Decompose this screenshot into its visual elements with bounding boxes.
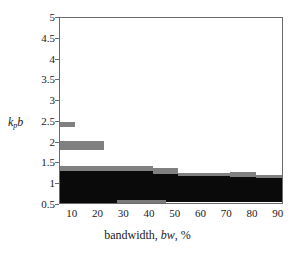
x-axis-title-prefix: bandwidth, <box>104 228 161 242</box>
band-segment <box>117 200 166 204</box>
chart-root: 0.511.522.533.544.55 102030405060708090 … <box>0 0 295 256</box>
x-axis-tick-labels: 102030405060708090 <box>0 208 295 224</box>
band-segment <box>256 178 283 200</box>
band-segment <box>60 141 104 151</box>
x-tick-label: 90 <box>272 208 283 219</box>
x-tick-label: 70 <box>221 208 232 219</box>
band-segment <box>230 177 256 200</box>
y-axis-title-b: b <box>17 115 23 129</box>
x-tick-label: 50 <box>169 208 180 219</box>
band-segment <box>60 171 153 201</box>
band-segment <box>166 200 283 202</box>
y-tick-label: 3.5 <box>41 74 55 85</box>
x-axis-title-suffix: , % <box>175 228 191 242</box>
plot-area <box>59 17 283 204</box>
x-tick-label: 30 <box>118 208 129 219</box>
y-axis-title-sub-p: p <box>13 121 17 130</box>
band-segment <box>60 122 75 127</box>
y-tick-label: 1.5 <box>41 157 55 168</box>
x-tick-label: 80 <box>247 208 258 219</box>
x-tick-label: 40 <box>144 208 155 219</box>
x-tick-label: 60 <box>195 208 206 219</box>
band-segment <box>178 176 229 200</box>
x-tick-label: 10 <box>66 208 77 219</box>
y-tick-mark <box>55 204 59 205</box>
y-tick-label: 2.5 <box>41 115 55 126</box>
band-segment <box>153 174 179 200</box>
x-tick-label: 20 <box>92 208 103 219</box>
x-axis-title: bandwidth, bw, % <box>0 228 295 243</box>
x-axis-title-italic: bw <box>161 228 175 242</box>
band-segment <box>60 200 117 204</box>
y-tick-label: 4.5 <box>41 32 55 43</box>
y-axis-title: kpb <box>8 115 23 130</box>
